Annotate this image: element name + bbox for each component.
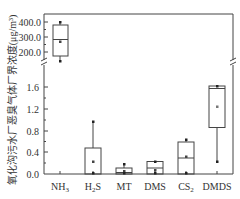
y-tick-400: 400.0 — [19, 17, 42, 28]
y-tick-0.0: 0.0 — [27, 169, 40, 180]
x-label-dmds: DMDS — [203, 181, 232, 192]
x-label-cs2: CS2 — [178, 181, 194, 194]
y-axis-label: 氧化沟污水厂恶臭气体厂界浓度(μg/m³) — [6, 15, 19, 186]
box-mt — [116, 163, 132, 175]
box-plot-chart: 氧化沟污水厂恶臭气体厂界浓度(μg/m³) 400.0 300.0 200.0 — [0, 0, 240, 199]
lower-ticks — [44, 87, 48, 163]
axis-break-left — [41, 58, 47, 65]
box-nh3 — [53, 21, 68, 63]
y-tick-200: 200.0 — [19, 47, 42, 58]
y-tick-300: 300.0 — [19, 32, 42, 43]
y-tick-0.8: 0.8 — [27, 126, 40, 137]
box-dmds — [209, 85, 225, 163]
box-h2s — [85, 121, 101, 175]
y-tick-0.4: 0.4 — [27, 147, 40, 158]
y-tick-1.6: 1.6 — [27, 82, 40, 93]
y-tick-1.2: 1.2 — [27, 104, 40, 115]
axis-break-right — [230, 58, 236, 65]
box-cs2 — [178, 139, 194, 175]
x-label-h2s: H2S — [85, 181, 101, 194]
x-label-dms: DMS — [144, 181, 166, 192]
box-dms — [147, 161, 163, 175]
x-label-nh3: NH3 — [51, 181, 69, 194]
x-label-mt: MT — [117, 181, 132, 192]
upper-ticks — [44, 22, 48, 52]
